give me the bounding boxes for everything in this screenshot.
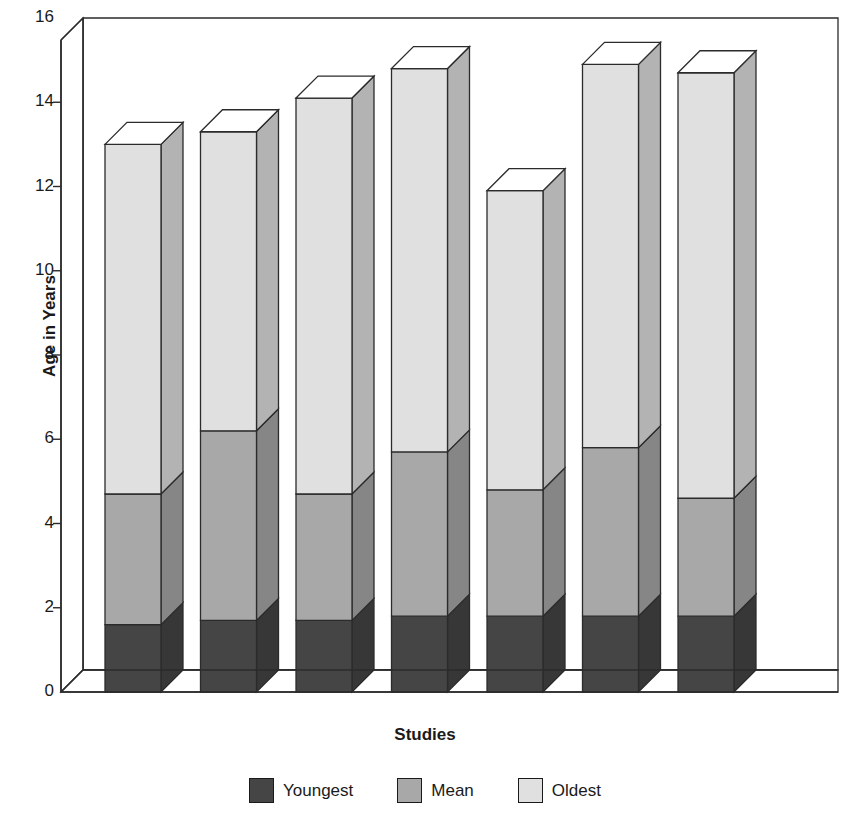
plot-area	[0, 0, 850, 760]
bar-front-face	[487, 191, 543, 490]
chart-container: Age in Years Studies 0246810121416 Young…	[0, 0, 850, 818]
bar-side-face	[257, 110, 279, 431]
bar-front-face	[392, 452, 448, 616]
bar-front-face	[201, 620, 257, 692]
bar-side-face	[257, 409, 279, 621]
bar-front-face	[583, 64, 639, 447]
bar-side-face	[161, 122, 183, 494]
legend-swatch-mean	[397, 778, 422, 803]
chart-legend: YoungestMeanOldest	[0, 778, 850, 803]
bar-front-face	[583, 616, 639, 692]
bar-front-face	[201, 132, 257, 431]
bar-front-face	[487, 490, 543, 616]
legend-item[interactable]: Mean	[397, 778, 474, 803]
bar-front-face	[392, 69, 448, 452]
legend-item[interactable]: Oldest	[518, 778, 601, 803]
plot-left-wall	[61, 18, 83, 692]
bar-front-face	[583, 448, 639, 617]
bar-front-face	[392, 616, 448, 692]
bar-side-face	[448, 47, 470, 452]
bar-side-face	[639, 426, 661, 617]
bar-side-face	[352, 472, 374, 620]
bar-front-face	[678, 498, 734, 616]
bar-front-face	[201, 431, 257, 621]
legend-item[interactable]: Youngest	[249, 778, 353, 803]
bar-front-face	[296, 494, 352, 620]
bar-side-face	[448, 430, 470, 616]
legend-label: Oldest	[552, 781, 601, 801]
bar-front-face	[105, 144, 161, 494]
bar-front-face	[296, 98, 352, 494]
bar-front-face	[105, 494, 161, 625]
bar-front-face	[487, 616, 543, 692]
legend-swatch-youngest	[249, 778, 274, 803]
bar-side-face	[352, 76, 374, 494]
bar-side-face	[734, 476, 756, 616]
bar-front-face	[678, 73, 734, 498]
bar-side-face	[639, 42, 661, 447]
bar-side-face	[543, 169, 565, 490]
legend-swatch-oldest	[518, 778, 543, 803]
legend-label: Mean	[431, 781, 474, 801]
bar-front-face	[296, 620, 352, 692]
bar-side-face	[543, 468, 565, 616]
bar-side-face	[161, 472, 183, 625]
bar-front-face	[678, 616, 734, 692]
bar-side-face	[734, 51, 756, 498]
bar-front-face	[105, 625, 161, 692]
legend-label: Youngest	[283, 781, 353, 801]
